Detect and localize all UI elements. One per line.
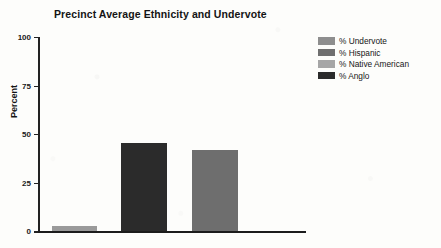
y-tick-label: 100 [18, 33, 31, 42]
chart-container: Precinct Average Ethnicity and Undervote… [0, 0, 441, 248]
y-tick-label: 0 [27, 227, 31, 236]
legend-swatch [318, 60, 335, 68]
bar [121, 143, 167, 232]
y-axis-label: Percent [9, 85, 19, 118]
legend-label: % Native American [339, 59, 409, 69]
chart-legend: % Undervote% Hispanic% Native American% … [318, 36, 409, 81]
y-tick-mark [34, 231, 38, 232]
chart-title: Precinct Average Ethnicity and Undervote [54, 8, 267, 20]
legend-item: % Hispanic [318, 48, 409, 58]
plot-area: 0255075100 [38, 37, 306, 233]
x-axis-line [38, 231, 306, 233]
legend-item: % Undervote [318, 36, 409, 46]
bar-group [38, 37, 306, 231]
legend-label: % Anglo [339, 71, 369, 81]
legend-label: % Hispanic [339, 48, 381, 58]
legend-swatch [318, 49, 335, 57]
legend-item: % Anglo [318, 71, 409, 81]
bar [192, 150, 238, 232]
legend-label: % Undervote [339, 36, 387, 46]
y-tick-label: 50 [22, 130, 31, 139]
bar [52, 226, 97, 231]
y-tick-label: 25 [22, 178, 31, 187]
legend-swatch [318, 72, 335, 80]
y-tick-label: 75 [22, 81, 31, 90]
legend-swatch [318, 37, 335, 45]
legend-item: % Native American [318, 59, 409, 69]
